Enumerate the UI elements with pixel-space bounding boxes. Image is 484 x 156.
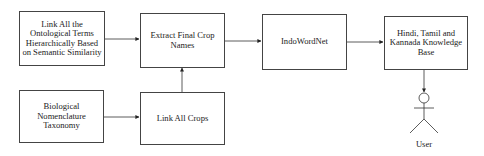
box-label: Hindi, Tamil and Kannada Knowledge Base [387, 29, 465, 57]
box-link-all-crops: Link All Crops [140, 92, 225, 145]
user-label: User [404, 139, 444, 149]
box-indowordnet: IndoWordNet [262, 14, 347, 70]
box-label: Link All Crops [157, 114, 209, 123]
box-knowledge-base: Hindi, Tamil and Kannada Knowledge Base [384, 16, 468, 70]
box-label: IndoWordNet [281, 37, 328, 46]
flowchart-canvas: Link All the Ontological Terms Hierarchi… [0, 0, 484, 156]
box-link-ontological-terms: Link All the Ontological Terms Hierarchi… [19, 11, 105, 66]
box-label: Biological Nomenclature Taxonomy [22, 102, 101, 130]
box-label: Extract Final Crop Names [143, 31, 222, 50]
user-actor-icon [410, 93, 438, 133]
box-biological-nomenclature-taxonomy: Biological Nomenclature Taxonomy [19, 90, 104, 143]
box-extract-final-crop-names: Extract Final Crop Names [140, 13, 225, 68]
box-label: Link All the Ontological Terms Hierarchi… [22, 20, 102, 58]
